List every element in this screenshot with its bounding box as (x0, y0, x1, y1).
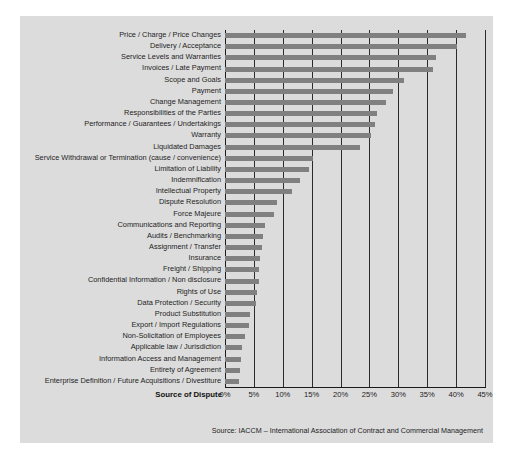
x-tick-label: 15% (304, 390, 319, 399)
source-note: Source: IACCM – International Associatio… (212, 426, 483, 435)
bar (225, 133, 371, 138)
bar-row: Applicable law / Jurisdiction (225, 342, 485, 353)
bar (225, 55, 436, 60)
bar-row: Insurance (225, 253, 485, 264)
bar-row: Liquidated Damages (225, 142, 485, 153)
category-label: Data Protection / Security (137, 297, 221, 308)
bar (225, 111, 377, 116)
bar-row: Freight / Shipping (225, 264, 485, 275)
bar-row: Data Protection / Security (225, 298, 485, 309)
category-label: Intellectual Property (156, 185, 221, 196)
bar-row: Entirety of Agreement (225, 365, 485, 376)
bar-row: Warranty (225, 130, 485, 141)
bar (225, 200, 277, 205)
category-label: Warranty (191, 129, 221, 140)
gridline-45% (485, 30, 486, 387)
bar-row: Indemnification (225, 175, 485, 186)
x-tick-label: 25% (362, 390, 377, 399)
bar-row: Communications and Reporting (225, 220, 485, 231)
x-tick-label: 40% (449, 390, 464, 399)
bar (225, 379, 239, 384)
bar (225, 178, 300, 183)
bar-row: Audits / Benchmarking (225, 231, 485, 242)
category-label: Force Majeure (173, 208, 221, 219)
bar (225, 44, 457, 49)
category-label: Service Levels and Warranties (121, 51, 221, 62)
category-label: Scope and Goals (164, 74, 221, 85)
bar-row: Service Levels and Warranties (225, 52, 485, 63)
bar-row: Information Access and Management (225, 354, 485, 365)
x-tick-label: 10% (275, 390, 290, 399)
category-label: Change Management (150, 96, 221, 107)
bar (225, 223, 265, 228)
bar-row: Product Substitution (225, 309, 485, 320)
x-axis-title: Source of Dispute (140, 390, 222, 399)
bar-row: Export / Import Regulations (225, 320, 485, 331)
category-label: Rights of Use (177, 286, 221, 297)
category-label: Information Access and Management (99, 353, 221, 364)
category-label: Enterprise Definition / Future Acquisiti… (45, 375, 221, 386)
bar-row: Intellectual Property (225, 186, 485, 197)
bar (225, 89, 393, 94)
category-label: Freight / Shipping (163, 263, 221, 274)
bar (225, 33, 466, 38)
category-label: Dispute Resolution (159, 196, 221, 207)
category-label: Delivery / Acceptance (150, 40, 221, 51)
category-label: Applicable law / Jurisdiction (131, 341, 221, 352)
bar (225, 279, 259, 284)
bar-row: Force Majeure (225, 209, 485, 220)
bar-row: Enterprise Definition / Future Acquisiti… (225, 376, 485, 387)
category-label: Indemnification (171, 174, 221, 185)
bar (225, 67, 433, 72)
bar-row: Invoices / Late Payment (225, 63, 485, 74)
x-tick-label: 0% (220, 390, 231, 399)
bar (225, 78, 404, 83)
x-tick-label: 5% (248, 390, 259, 399)
category-label: Export / Import Regulations (131, 319, 221, 330)
category-label: Performance / Guarantees / Undertakings (84, 118, 221, 129)
category-label: Invoices / Late Payment (142, 62, 221, 73)
bar-row: Payment (225, 86, 485, 97)
category-label: Non-Solicitation of Employees (122, 330, 221, 341)
x-tick-label: 20% (333, 390, 348, 399)
bar (225, 334, 245, 339)
bar-row: Limitation of Liability (225, 164, 485, 175)
category-label: Product Substitution (155, 308, 221, 319)
category-label: Communications and Reporting (117, 219, 221, 230)
bar (225, 301, 256, 306)
bar (225, 145, 360, 150)
bar-row: Rights of Use (225, 287, 485, 298)
bar (225, 245, 262, 250)
bar-row: Service Withdrawal or Termination (cause… (225, 153, 485, 164)
bar (225, 189, 292, 194)
bar-row: Non-Solicitation of Employees (225, 331, 485, 342)
bar-row: Delivery / Acceptance (225, 41, 485, 52)
bar (225, 122, 375, 127)
bar (225, 100, 386, 105)
bar (225, 212, 274, 217)
category-label: Audits / Benchmarking (147, 230, 221, 241)
bar-row: Responsibilities of the Parties (225, 108, 485, 119)
bar-row: Dispute Resolution (225, 197, 485, 208)
x-tick-label: 35% (420, 390, 435, 399)
bar (225, 357, 241, 362)
bar (225, 267, 259, 272)
bar-row: Change Management (225, 97, 485, 108)
category-label: Price / Charge / Price Changes (119, 29, 221, 40)
chart-panel: Price / Charge / Price ChangesDelivery /… (20, 16, 493, 443)
category-label: Limitation of Liability (154, 163, 221, 174)
bar (225, 256, 260, 261)
category-label: Service Withdrawal or Termination (cause… (35, 152, 221, 163)
category-label: Liquidated Damages (153, 141, 221, 152)
x-axis-line (225, 387, 486, 388)
bar (225, 323, 249, 328)
chart-screenshot: Price / Charge / Price ChangesDelivery /… (0, 0, 513, 459)
category-label: Responsibilities of the Parties (124, 107, 221, 118)
bar (225, 312, 250, 317)
category-label: Insurance (189, 252, 221, 263)
bar-row: Confidential Information / Non disclosur… (225, 275, 485, 286)
bar-row: Scope and Goals (225, 75, 485, 86)
plot-area: Price / Charge / Price ChangesDelivery /… (225, 30, 485, 387)
x-tick-label: 45% (477, 390, 492, 399)
category-label: Entirety of Agreement (150, 364, 221, 375)
